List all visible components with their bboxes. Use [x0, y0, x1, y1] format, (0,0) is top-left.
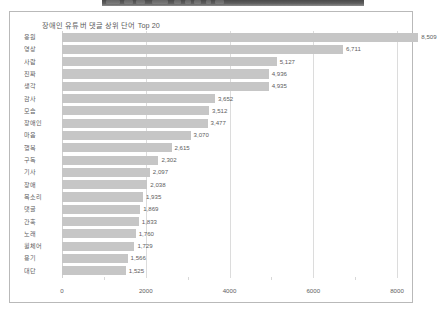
bar [62, 33, 418, 42]
bar-category-label: 댓글 [24, 203, 58, 215]
bar-value-label: 1,869 [143, 203, 158, 215]
bar-row: 간혹1,833 [10, 216, 414, 228]
toolbar-button-5[interactable] [174, 0, 181, 4]
bar-category-label: 마음 [24, 129, 58, 141]
bar-category-label: 모습 [24, 105, 58, 117]
bar [62, 119, 208, 128]
minor-tick-3000 [188, 277, 189, 280]
bar [62, 45, 343, 54]
bar-row: 장애인3,477 [10, 117, 414, 129]
bar-value-label: 2,302 [161, 154, 176, 166]
bar-value-label: 1,566 [131, 252, 146, 264]
bar-value-label: 2,615 [175, 142, 190, 154]
x-axis-tick-label: 2000 [139, 287, 153, 294]
bar-category-label: 용기 [24, 252, 58, 264]
x-axis-tick-label: 0 [60, 287, 63, 294]
bar-row: 기사2,097 [10, 166, 414, 178]
x-axis-tick-label: 8000 [390, 287, 404, 294]
bar-category-label: 휠체어 [24, 240, 58, 252]
bar [62, 242, 134, 251]
bar [62, 192, 143, 201]
bar-value-label: 3,070 [194, 129, 209, 141]
bar [62, 94, 215, 103]
bar-row: 목소리1,935 [10, 191, 414, 203]
bar-row: 사람5,127 [10, 56, 414, 68]
bar-value-label: 1,525 [129, 265, 144, 277]
bar [62, 143, 172, 152]
bar-category-label: 행복 [24, 142, 58, 154]
bar-value-label: 5,127 [280, 56, 295, 68]
bar-value-label: 2,038 [150, 179, 165, 191]
bar-row: 진짜4,936 [10, 68, 414, 80]
toolbar-button-8[interactable] [206, 0, 211, 4]
bar-chart-plot-area: 응원8,509영상6,711사람5,127진짜4,936생각4,935감사3,6… [10, 12, 414, 304]
bar-row: 모습3,512 [10, 105, 414, 117]
minor-tick-1000 [104, 277, 105, 280]
bar-value-label: 3,652 [218, 93, 233, 105]
x-axis-tick-label: 6000 [306, 287, 320, 294]
minor-tick-5000 [271, 277, 272, 280]
bar-row: 휠체어1,729 [10, 240, 414, 252]
bar-category-label: 대단 [24, 265, 58, 277]
bar-row: 댓글1,869 [10, 203, 414, 215]
bar [62, 217, 139, 226]
bar-value-label: 4,936 [272, 68, 287, 80]
window-toolbar-strip [102, 0, 364, 6]
bar-category-label: 응원 [24, 31, 58, 43]
bar-row: 행복2,615 [10, 142, 414, 154]
bar [62, 205, 140, 214]
toolbar-button-6[interactable] [185, 0, 191, 4]
toolbar-button-3[interactable] [136, 0, 145, 4]
bar [62, 180, 147, 189]
bar-value-label: 1,729 [137, 240, 152, 252]
bar [62, 156, 158, 165]
bar-value-label: 8,509 [421, 31, 436, 43]
bar [62, 266, 126, 275]
bar-category-label: 사람 [24, 56, 58, 68]
bar [62, 131, 191, 140]
bar-value-label: 1,833 [142, 216, 157, 228]
bar-category-label: 장애인 [24, 117, 58, 129]
bar-row: 노래1,760 [10, 228, 414, 240]
bar-category-label: 영상 [24, 43, 58, 55]
bar [62, 82, 269, 91]
bar-category-label: 장애 [24, 179, 58, 191]
bar-category-label: 노래 [24, 228, 58, 240]
bar-value-label: 2,097 [153, 166, 168, 178]
bar-row: 구독2,302 [10, 154, 414, 166]
toolbar-button-2[interactable] [124, 0, 133, 4]
bar [62, 229, 136, 238]
bar-category-label: 구독 [24, 154, 58, 166]
chart-card: 장애인 유튜버 댓글 상위 단어 Top 20 응원8,509영상6,711사람… [9, 11, 413, 303]
bar [62, 168, 150, 177]
bar-category-label: 감사 [24, 93, 58, 105]
bar-category-label: 간혹 [24, 216, 58, 228]
bar-category-label: 진짜 [24, 68, 58, 80]
bar-value-label: 3,477 [211, 117, 226, 129]
bar [62, 254, 128, 263]
toolbar-button-1[interactable] [106, 0, 120, 4]
bar-value-label: 3,512 [212, 105, 227, 117]
bar-row: 장애2,038 [10, 179, 414, 191]
bar-row: 영상6,711 [10, 43, 414, 55]
bar-value-label: 1,935 [146, 191, 161, 203]
bar [62, 57, 277, 66]
bar-row: 감사3,652 [10, 93, 414, 105]
bar-value-label: 6,711 [346, 43, 361, 55]
bar-row: 생각4,935 [10, 80, 414, 92]
bar-category-label: 목소리 [24, 191, 58, 203]
toolbar-button-4[interactable] [152, 0, 168, 4]
bar [62, 69, 269, 78]
bar-category-label: 기사 [24, 166, 58, 178]
x-axis-tick-label: 4000 [223, 287, 237, 294]
bar-value-label: 4,935 [272, 80, 287, 92]
bar-value-label: 1,760 [139, 228, 154, 240]
bar-row: 응원8,509 [10, 31, 414, 43]
bar [62, 106, 209, 115]
bar-row: 마음3,070 [10, 129, 414, 141]
bar-row: 대단1,525 [10, 265, 414, 277]
toolbar-button-9[interactable] [215, 0, 224, 4]
bar-category-label: 생각 [24, 80, 58, 92]
minor-tick-7000 [355, 277, 356, 280]
toolbar-button-7[interactable] [194, 0, 201, 4]
